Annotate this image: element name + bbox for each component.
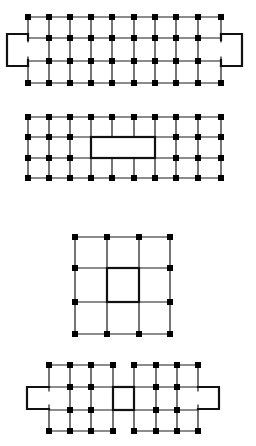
center-square (107, 268, 139, 302)
grid-3-nodes (72, 234, 173, 337)
grid-1-nodes (25, 14, 224, 86)
left-bracket (27, 387, 49, 409)
center-square (113, 387, 134, 410)
grid-4-nodes (46, 362, 201, 434)
grid-diagrams-svg (0, 0, 256, 446)
right-bracket (198, 387, 219, 409)
grid-2 (25, 114, 224, 181)
diagram-canvas (0, 0, 256, 446)
left-bracket (7, 34, 28, 66)
grid-2-nodes (25, 114, 224, 181)
right-bracket (221, 34, 242, 66)
grid-4 (27, 362, 219, 434)
grid-3 (72, 234, 173, 337)
center-rectangle (91, 137, 155, 158)
grid-1 (7, 14, 242, 86)
